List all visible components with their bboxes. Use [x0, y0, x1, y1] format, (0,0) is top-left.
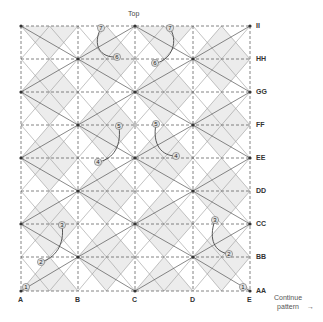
- row-label: FF: [256, 121, 265, 128]
- continue-pattern-note: Continue pattern →: [274, 293, 302, 311]
- row-label: HH: [256, 55, 266, 62]
- row-label: AA: [256, 287, 266, 294]
- quilt-pattern-grid: 12345671234567: [0, 0, 323, 322]
- column-label: D: [190, 296, 195, 303]
- column-label: E: [247, 296, 252, 303]
- top-label: Top: [128, 10, 139, 17]
- row-label: EE: [256, 154, 265, 161]
- arrow-right-icon: →: [307, 302, 314, 311]
- row-label: DD: [256, 187, 266, 194]
- row-label: BB: [256, 253, 266, 260]
- row-label: CC: [256, 220, 266, 227]
- column-label: C: [132, 296, 137, 303]
- row-label: GG: [256, 88, 267, 95]
- column-label: B: [75, 296, 80, 303]
- column-label: A: [18, 296, 23, 303]
- row-label: II: [256, 22, 260, 29]
